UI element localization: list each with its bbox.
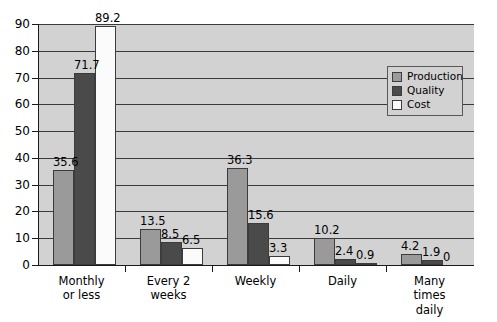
y-tick-label-50: 50 <box>6 125 30 137</box>
y-tick-mark-50 <box>32 131 38 132</box>
y-tick-mark-70 <box>32 78 38 79</box>
y-tick-mark-0 <box>32 265 38 266</box>
x-tick-label-line: weeks <box>126 288 212 302</box>
x-tick-label-line: Weekly <box>213 274 299 288</box>
y-tick-label-20: 20 <box>6 205 30 217</box>
y-tick-label-90: 90 <box>6 18 30 30</box>
x-tick-label-line: or less <box>39 288 125 302</box>
legend-label-production: Production <box>407 71 463 82</box>
x-tick-mark-2 <box>212 266 213 272</box>
legend-item-cost[interactable]: Cost <box>392 98 458 111</box>
x-tick-label-line: Every 2 <box>126 274 212 288</box>
bar-value-production-group-1: 35.6 <box>53 157 79 169</box>
x-tick-label-group-2: Every 2weeks <box>126 274 212 303</box>
x-tick-mark-3 <box>299 266 300 272</box>
y-tick-label-0: 0 <box>6 259 30 271</box>
y-tick-mark-20 <box>32 211 38 212</box>
x-tick-label-line: times <box>387 288 473 302</box>
bar-value-cost-group-1: 89.2 <box>95 13 121 25</box>
bar-value-cost-group-4: 0.9 <box>356 250 374 262</box>
y-tick-label-60: 60 <box>6 98 30 110</box>
bar-value-quality-group-4: 2.4 <box>335 246 353 258</box>
bar-value-production-group-5: 4.2 <box>401 241 419 253</box>
bar-value-cost-group-2: 6.5 <box>182 235 200 247</box>
y-tick-label-10: 10 <box>6 232 30 244</box>
y-tick-mark-90 <box>32 24 38 25</box>
x-tick-label-line: Daily <box>300 274 386 288</box>
legend-label-quality: Quality <box>407 85 445 96</box>
y-tick-mark-10 <box>32 238 38 239</box>
bar-value-quality-group-1: 71.7 <box>74 60 100 72</box>
bar-value-production-group-3: 36.3 <box>227 155 253 167</box>
y-tick-label-30: 30 <box>6 179 30 191</box>
legend-swatch-production-icon <box>392 72 402 82</box>
y-tick-mark-40 <box>32 158 38 159</box>
x-tick-mark-4 <box>386 266 387 272</box>
y-tick-mark-30 <box>32 185 38 186</box>
legend-item-production[interactable]: Production <box>392 70 458 83</box>
bar-value-quality-group-5: 1.9 <box>422 247 440 259</box>
y-tick-label-40: 40 <box>6 152 30 164</box>
y-tick-label-80: 80 <box>6 45 30 57</box>
legend-swatch-cost-icon <box>392 100 402 110</box>
x-tick-mark-1 <box>125 266 126 272</box>
legend-swatch-quality-icon <box>392 86 402 96</box>
bar-value-production-group-2: 13.5 <box>140 216 166 228</box>
x-tick-label-group-4: Daily <box>300 274 386 288</box>
x-tick-label-line: daily <box>387 303 473 317</box>
x-tick-label-line: Monthly <box>39 274 125 288</box>
x-tick-label-line: Many <box>387 274 473 288</box>
x-tick-label-group-1: Monthlyor less <box>39 274 125 303</box>
bar-value-quality-group-3: 15.6 <box>248 210 274 222</box>
legend-item-quality[interactable]: Quality <box>392 84 458 97</box>
bar-value-cost-group-3: 3.3 <box>269 243 287 255</box>
y-tick-mark-60 <box>32 104 38 105</box>
y-tick-label-70: 70 <box>6 72 30 84</box>
legend-label-cost: Cost <box>407 99 430 110</box>
x-tick-label-group-3: Weekly <box>213 274 299 288</box>
x-tick-label-group-5: Manytimesdaily <box>387 274 473 317</box>
bar-value-cost-group-5: 0 <box>443 252 450 264</box>
y-tick-mark-80 <box>32 51 38 52</box>
bar-value-quality-group-2: 8.5 <box>161 229 179 241</box>
bar-chart: 9080706050403020100 Monthlyor lessEvery … <box>0 0 497 322</box>
legend: Production Quality Cost <box>387 66 463 116</box>
bar-value-production-group-4: 10.2 <box>314 225 340 237</box>
